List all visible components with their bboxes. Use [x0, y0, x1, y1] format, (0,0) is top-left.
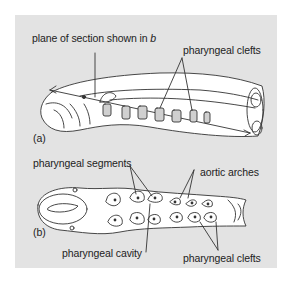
plane-label-text: plane of section shown in — [32, 32, 150, 44]
aortic-arches-label: aortic arches — [200, 167, 259, 178]
pharyngeal-cavity-label: pharyngeal cavity — [62, 248, 142, 259]
pharyngeal-clefts-label-b: pharyngeal clefts — [183, 253, 261, 264]
embryo-body-a — [41, 53, 264, 137]
plane-label-ref: b — [150, 32, 156, 44]
panel-a-tag: (a) — [33, 133, 46, 144]
plane-of-section-label: plane of section shown in b — [32, 33, 156, 44]
section-b — [38, 166, 246, 252]
panel-b-tag: (b) — [33, 227, 46, 238]
pharyngeal-clefts-label-a: pharyngeal clefts — [183, 45, 261, 56]
pharyngeal-segments-label: pharyngeal segments — [33, 158, 132, 169]
